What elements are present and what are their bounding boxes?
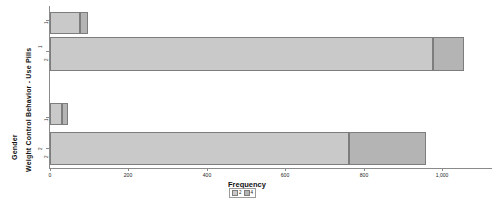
bar-segment-series-4 bbox=[62, 103, 68, 125]
bar-segment-series-2 bbox=[50, 103, 62, 125]
x-axis-tick-label: 0 bbox=[49, 172, 52, 178]
x-axis-tick-label: 1,000 bbox=[436, 172, 449, 178]
x-axis-tick-mark bbox=[207, 168, 208, 171]
y-axis-inner-title: Weight Control Behavior - Use Pills bbox=[25, 48, 32, 172]
legend-entry-series-4[interactable]: 4 bbox=[244, 190, 254, 196]
group-tick-label-1: 1 bbox=[38, 45, 43, 48]
x-axis-tick-label: 200 bbox=[124, 172, 132, 178]
bar-segment-series-2 bbox=[50, 132, 349, 165]
bar-segment-series-4 bbox=[349, 132, 426, 165]
value-axis-line bbox=[49, 168, 492, 169]
y-axis-outer-title: Gender bbox=[11, 134, 18, 160]
bar-segment-series-2 bbox=[50, 37, 433, 71]
bar-segment-series-4 bbox=[80, 12, 88, 34]
bar-segment-series-4 bbox=[433, 37, 464, 71]
legend-swatch-icon bbox=[244, 190, 250, 196]
x-axis-tick-mark bbox=[285, 168, 286, 171]
plot-area bbox=[50, 6, 492, 168]
x-axis-tick-mark bbox=[50, 168, 51, 171]
x-axis-tick-mark bbox=[442, 168, 443, 171]
bar-segment-series-2 bbox=[50, 12, 80, 34]
bar-chart: Gender Weight Control Behavior - Use Pil… bbox=[0, 0, 494, 205]
x-axis-tick-mark bbox=[364, 168, 365, 171]
x-axis-tick-label: 600 bbox=[281, 172, 289, 178]
legend: 2 4 bbox=[229, 188, 256, 198]
x-axis-tick-label: 400 bbox=[203, 172, 211, 178]
x-axis-tick-mark bbox=[128, 168, 129, 171]
legend-entry-series-2[interactable]: 2 bbox=[232, 190, 242, 196]
legend-label: 4 bbox=[251, 191, 254, 196]
x-axis-tick-label: 800 bbox=[360, 172, 368, 178]
group-tick-label-2: 2 bbox=[38, 147, 43, 150]
legend-swatch-icon bbox=[232, 190, 238, 196]
legend-label: 2 bbox=[239, 191, 242, 196]
